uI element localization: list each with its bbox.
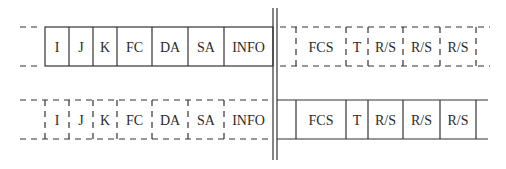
field-sa: SA xyxy=(197,40,216,55)
field-j: J xyxy=(78,113,84,128)
field-j: J xyxy=(78,40,84,55)
field-rs-3: R/S xyxy=(447,40,468,55)
field-rs-1: R/S xyxy=(375,40,396,55)
double-separator-line xyxy=(273,8,277,160)
field-da: DA xyxy=(160,113,181,128)
field-k: K xyxy=(100,40,110,55)
field-k: K xyxy=(100,113,110,128)
field-i: I xyxy=(55,40,60,55)
field-t: T xyxy=(353,40,362,55)
field-t: T xyxy=(353,113,362,128)
field-i: I xyxy=(55,113,60,128)
field-fcs: FCS xyxy=(309,40,334,55)
field-fc: FC xyxy=(126,40,143,55)
field-rs-3: R/S xyxy=(447,113,468,128)
field-fc: FC xyxy=(126,113,143,128)
field-rs-2: R/S xyxy=(411,40,432,55)
field-info: INFO xyxy=(232,40,265,55)
field-sa: SA xyxy=(197,113,216,128)
field-da: DA xyxy=(160,40,181,55)
field-fcs: FCS xyxy=(309,113,334,128)
field-rs-1: R/S xyxy=(375,113,396,128)
field-rs-2: R/S xyxy=(411,113,432,128)
field-info: INFO xyxy=(232,113,265,128)
frame-format-diagram: I J K FC DA SA INFO FCS T R/S R/S R/S I … xyxy=(0,0,506,169)
